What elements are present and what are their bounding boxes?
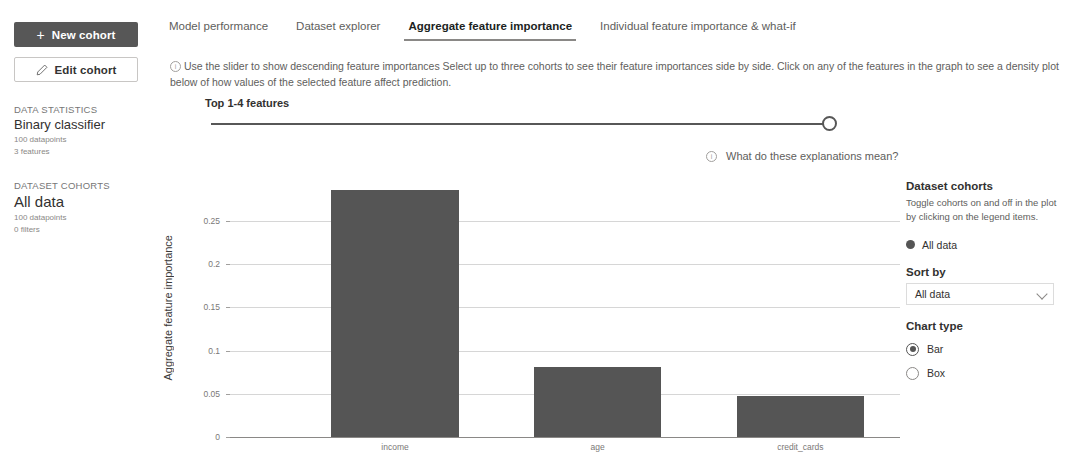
edit-cohort-button[interactable]: Edit cohort — [14, 57, 138, 82]
chart-options-panel: Dataset cohorts Toggle cohorts on and of… — [906, 180, 1066, 380]
y-tick-mark — [226, 307, 230, 308]
slider-label: Top 1-4 features — [205, 97, 289, 109]
data-statistics-features: 3 features — [14, 146, 138, 158]
y-tick-label: 0.2 — [208, 259, 220, 269]
sort-by-value: All data — [915, 288, 950, 300]
x-axis-line — [230, 437, 900, 438]
chart-type-option-box[interactable]: Box — [906, 367, 1066, 380]
slider-thumb[interactable] — [822, 116, 837, 131]
edit-cohort-label: Edit cohort — [55, 64, 117, 76]
data-statistics-title: Binary classifier — [14, 116, 138, 134]
bar-age[interactable] — [534, 367, 661, 437]
chevron-down-icon — [1036, 288, 1047, 299]
dataset-cohorts-title: All data — [14, 192, 138, 212]
radio-box-icon[interactable] — [906, 367, 919, 380]
info-callout: iUse the slider to show descending featu… — [170, 58, 1060, 91]
sidebar: + New cohort Edit cohort DATA STATISTICS… — [0, 0, 150, 473]
y-tick-mark — [226, 351, 230, 352]
chart-type-box-label: Box — [927, 367, 945, 379]
tab-model-performance[interactable]: Model performance — [155, 16, 282, 41]
data-statistics-datapoints: 100 datapoints — [14, 134, 138, 146]
y-tick-label: 0.25 — [203, 216, 220, 226]
chart-type-bar-label: Bar — [927, 343, 943, 355]
y-tick-label: 0 — [215, 432, 220, 442]
dataset-cohorts-caption: DATASET COHORTS — [14, 180, 138, 191]
new-cohort-label: New cohort — [52, 29, 116, 41]
dataset-cohorts-section: DATASET COHORTS All data 100 datapoints … — [14, 180, 138, 236]
new-cohort-button[interactable]: + New cohort — [14, 22, 138, 47]
y-tick-mark — [226, 437, 230, 438]
y-tick-label: 0.05 — [203, 389, 220, 399]
plot-area: 00.050.10.150.20.25incomeagecredit_cards — [230, 180, 900, 437]
dataset-cohorts-description: Toggle cohorts on and off in the plot by… — [906, 196, 1066, 225]
bar-credit_cards[interactable] — [737, 396, 864, 437]
tab-aggregate-feature-importance[interactable]: Aggregate feature importance — [394, 16, 586, 41]
info-callout-text: Use the slider to show descending featur… — [170, 60, 1059, 88]
tab-bar: Model performance Dataset explorer Aggre… — [155, 16, 810, 41]
dataset-cohorts-filters: 0 filters — [14, 224, 138, 236]
y-tick-mark — [226, 394, 230, 395]
legend-item-label: All data — [922, 239, 957, 251]
tab-dataset-explorer[interactable]: Dataset explorer — [282, 16, 394, 41]
x-tick-label: credit_cards — [777, 442, 823, 452]
info-icon: i — [170, 61, 181, 72]
explain-link-label: What do these explanations mean? — [726, 150, 898, 162]
data-statistics-section: DATA STATISTICS Binary classifier 100 da… — [14, 104, 138, 158]
pencil-icon — [36, 64, 48, 76]
legend-item-all-data[interactable]: All data — [906, 239, 1066, 251]
x-tick-label: age — [591, 442, 605, 452]
bar-income[interactable] — [331, 190, 458, 437]
y-axis-title: Aggregate feature importance — [162, 235, 178, 381]
sort-by-dropdown[interactable]: All data — [906, 283, 1054, 305]
slider-track[interactable] — [211, 123, 836, 125]
top-features-slider[interactable] — [211, 114, 836, 134]
x-tick-label: income — [381, 442, 408, 452]
chart-type-heading: Chart type — [906, 320, 1066, 332]
aggregate-feature-importance-chart: Aggregate feature importance 00.050.10.1… — [160, 180, 900, 465]
plus-icon: + — [37, 28, 45, 42]
tab-individual-feature-importance[interactable]: Individual feature importance & what-if — [586, 16, 810, 41]
what-do-explanations-mean-link[interactable]: i What do these explanations mean? — [706, 150, 898, 162]
y-tick-mark — [226, 264, 230, 265]
radio-bar-icon[interactable] — [906, 343, 919, 356]
chart-type-option-bar[interactable]: Bar — [906, 343, 1066, 356]
dataset-cohorts-datapoints: 100 datapoints — [14, 212, 138, 224]
dataset-cohorts-heading: Dataset cohorts — [906, 180, 1066, 192]
sort-by-heading: Sort by — [906, 266, 1066, 278]
data-statistics-caption: DATA STATISTICS — [14, 104, 138, 115]
legend-color-swatch — [906, 240, 915, 249]
info-icon: i — [706, 151, 717, 162]
y-tick-mark — [226, 221, 230, 222]
y-tick-label: 0.15 — [203, 302, 220, 312]
y-tick-label: 0.1 — [208, 346, 220, 356]
